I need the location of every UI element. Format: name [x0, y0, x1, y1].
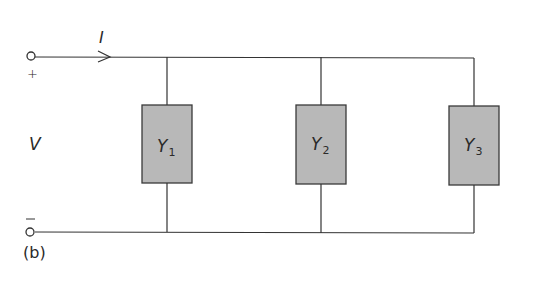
circuit-diagram: Y1 Y2 Y3 + I V (b): [0, 0, 533, 286]
panel-label: (b): [23, 243, 46, 262]
current-arrow-icon: [98, 51, 110, 62]
branch-y3: Y3: [449, 58, 499, 233]
branch-y2: Y2: [296, 57, 346, 233]
bottom-wire: [35, 232, 474, 233]
top-wire: [35, 57, 474, 58]
positive-sign: +: [27, 66, 38, 81]
current-label: I: [99, 28, 104, 47]
negative-terminal-icon: [26, 228, 34, 236]
branch-y1: Y1: [142, 57, 192, 232]
positive-terminal-icon: [27, 52, 35, 60]
voltage-label: V: [29, 134, 42, 154]
